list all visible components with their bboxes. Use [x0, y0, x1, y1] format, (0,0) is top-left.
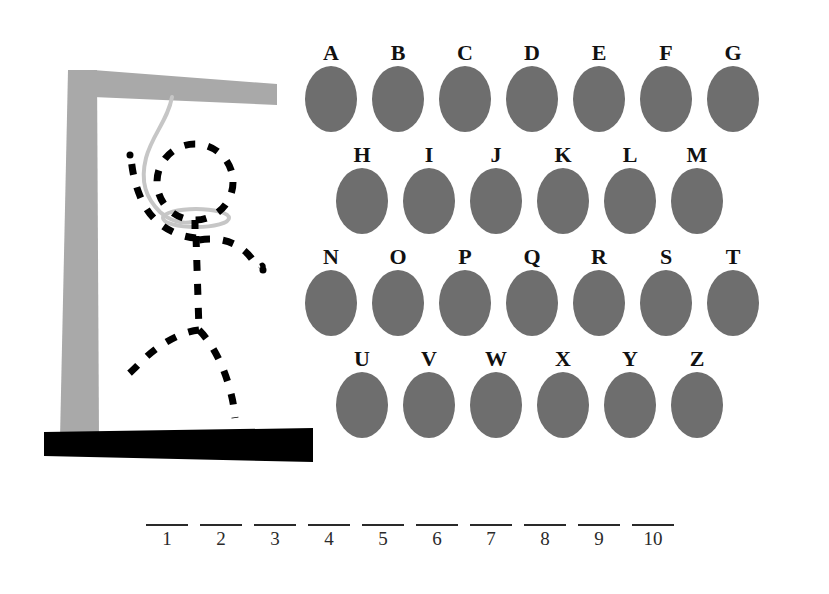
figure-left-hand-dot [127, 152, 134, 159]
letter-key-label: M [687, 144, 708, 167]
answer-blank-number: 10 [644, 529, 663, 549]
letter-key-disc[interactable] [671, 372, 723, 438]
letter-key-disc[interactable] [506, 270, 558, 336]
letter-key-label: W [485, 348, 507, 371]
letter-key-disc[interactable] [640, 270, 692, 336]
letter-key-disc[interactable] [305, 66, 357, 132]
figure-right-hand-dot [260, 267, 267, 274]
letter-key-disc[interactable] [470, 168, 522, 234]
keypad-row: HIJKLM [305, 144, 805, 246]
letter-key-disc[interactable] [403, 168, 455, 234]
answer-blank[interactable]: 10 [632, 524, 674, 549]
letter-key-s[interactable]: S [640, 246, 692, 336]
letter-key-label: O [389, 246, 406, 269]
letter-key-disc[interactable] [372, 270, 424, 336]
letter-key-q[interactable]: Q [506, 246, 558, 336]
answer-blank[interactable]: 3 [254, 524, 296, 549]
letter-key-label: Z [690, 348, 705, 371]
gallows-post [60, 70, 99, 438]
answer-blank-line [524, 524, 566, 526]
letter-key-e[interactable]: E [573, 42, 625, 132]
letter-key-disc[interactable] [537, 168, 589, 234]
letter-key-disc[interactable] [439, 270, 491, 336]
letter-key-y[interactable]: Y [604, 348, 656, 438]
letter-key-disc[interactable] [604, 372, 656, 438]
letter-key-w[interactable]: W [470, 348, 522, 438]
letter-key-disc[interactable] [372, 66, 424, 132]
letter-key-disc[interactable] [305, 270, 357, 336]
letter-key-disc[interactable] [506, 66, 558, 132]
answer-blank[interactable]: 1 [146, 524, 188, 549]
letter-key-d[interactable]: D [506, 42, 558, 132]
letter-key-label: U [354, 348, 370, 371]
letter-key-x[interactable]: X [537, 348, 589, 438]
letter-key-r[interactable]: R [573, 246, 625, 336]
letter-key-disc[interactable] [470, 372, 522, 438]
letter-key-p[interactable]: P [439, 246, 491, 336]
answer-blank-line [200, 524, 242, 526]
letter-key-disc[interactable] [604, 168, 656, 234]
letter-key-t[interactable]: T [707, 246, 759, 336]
letter-key-h[interactable]: H [336, 144, 388, 234]
letter-key-o[interactable]: O [372, 246, 424, 336]
letter-key-label: V [421, 348, 437, 371]
letter-key-disc[interactable] [707, 270, 759, 336]
answer-blank[interactable]: 7 [470, 524, 512, 549]
letter-key-j[interactable]: J [470, 144, 522, 234]
letter-key-label: T [726, 246, 741, 269]
answer-blank-number: 4 [324, 529, 334, 549]
letter-key-z[interactable]: Z [671, 348, 723, 438]
letter-key-f[interactable]: F [640, 42, 692, 132]
letter-key-c[interactable]: C [439, 42, 491, 132]
letter-key-disc[interactable] [336, 168, 388, 234]
answer-blank[interactable]: 4 [308, 524, 350, 549]
letter-key-a[interactable]: A [305, 42, 357, 132]
figure-torso [196, 236, 199, 330]
answer-blank[interactable]: 6 [416, 524, 458, 549]
letter-key-disc[interactable] [537, 372, 589, 438]
answer-blank-number: 7 [486, 529, 496, 549]
gallows-illustration [0, 0, 330, 480]
letter-key-i[interactable]: I [403, 144, 455, 234]
letter-key-disc[interactable] [573, 270, 625, 336]
letter-key-disc[interactable] [439, 66, 491, 132]
answer-blank-line [470, 524, 512, 526]
letter-key-label: L [623, 144, 638, 167]
letter-key-disc[interactable] [640, 66, 692, 132]
answer-blank-line [362, 524, 404, 526]
letter-key-v[interactable]: V [403, 348, 455, 438]
letter-key-disc[interactable] [573, 66, 625, 132]
letter-key-disc[interactable] [707, 66, 759, 132]
letter-key-u[interactable]: U [336, 348, 388, 438]
letter-key-l[interactable]: L [604, 144, 656, 234]
letter-key-label: J [491, 144, 502, 167]
letter-key-disc[interactable] [336, 372, 388, 438]
answer-blank[interactable]: 2 [200, 524, 242, 549]
letter-key-label: I [425, 144, 434, 167]
letter-key-m[interactable]: M [671, 144, 723, 234]
keypad-row: ABCDEFG [305, 42, 805, 144]
answer-blank[interactable]: 8 [524, 524, 566, 549]
letter-key-label: N [323, 246, 339, 269]
answer-blank-line [254, 524, 296, 526]
answer-blanks: 12345678910 [146, 524, 676, 549]
answer-blank[interactable]: 9 [578, 524, 620, 549]
figure-right-leg [199, 330, 235, 418]
answer-blank-number: 2 [216, 529, 226, 549]
answer-blank-number: 5 [378, 529, 388, 549]
letter-key-label: D [524, 42, 540, 65]
letter-key-label: A [323, 42, 339, 65]
letter-key-k[interactable]: K [537, 144, 589, 234]
letter-key-disc[interactable] [671, 168, 723, 234]
letter-key-b[interactable]: B [372, 42, 424, 132]
answer-blank-line [632, 524, 674, 526]
gallows-base [44, 428, 313, 462]
letter-key-g[interactable]: G [707, 42, 759, 132]
letter-key-label: K [554, 144, 571, 167]
answer-blank-line [578, 524, 620, 526]
letter-key-label: X [555, 348, 571, 371]
letter-key-n[interactable]: N [305, 246, 357, 336]
letter-key-label: H [353, 144, 370, 167]
letter-key-disc[interactable] [403, 372, 455, 438]
answer-blank[interactable]: 5 [362, 524, 404, 549]
